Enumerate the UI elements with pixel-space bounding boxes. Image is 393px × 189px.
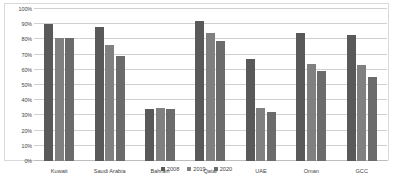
bar-2019-oman	[307, 64, 316, 161]
legend-item-2008[interactable]: 2008	[161, 166, 179, 172]
legend-item-2020[interactable]: 2020	[214, 166, 232, 172]
bar-2019-gcc	[357, 65, 366, 161]
y-axis-tick-label: 10%	[22, 143, 33, 149]
bar-2020-qatar	[216, 41, 225, 161]
bar-2008-bahrain	[145, 109, 154, 161]
bar-groups	[34, 9, 387, 161]
y-axis-labels: 100%90%80%70%60%50%40%30%20%10%0%	[4, 9, 32, 161]
bar-2019-qatar	[206, 33, 215, 161]
legend-item-2019[interactable]: 2019	[187, 166, 205, 172]
bar-group	[135, 9, 185, 161]
legend-swatch-icon	[214, 167, 218, 171]
bar-2020-bahrain	[166, 109, 175, 161]
bar-group	[286, 9, 336, 161]
bar-chart: 100%90%80%70%60%50%40%30%20%10%0% Kuwait…	[0, 0, 393, 189]
bar-2008-gcc	[347, 35, 356, 161]
y-axis-tick-label: 30%	[22, 112, 33, 118]
bar-group	[337, 9, 387, 161]
legend-swatch-icon	[187, 167, 191, 171]
bar-2020-oman	[317, 71, 326, 161]
bar-group	[185, 9, 235, 161]
bar-2008-uae	[246, 59, 255, 161]
bar-group	[84, 9, 134, 161]
bar-2020-kuwait	[65, 38, 74, 161]
bar-2008-saudi-arabia	[95, 27, 104, 161]
chart-legend: 200820192020	[0, 166, 393, 172]
y-axis-tick-label: 40%	[22, 97, 33, 103]
y-axis-tick-label: 80%	[22, 36, 33, 42]
bar-2020-uae	[267, 112, 276, 161]
legend-label: 2019	[193, 166, 205, 172]
bar-2020-gcc	[368, 77, 377, 161]
bar-2020-saudi-arabia	[116, 56, 125, 161]
y-axis-tick-label: 20%	[22, 128, 33, 134]
bar-2008-oman	[296, 33, 305, 161]
bar-2019-kuwait	[55, 38, 64, 161]
bar-2019-uae	[256, 108, 265, 161]
plot-area	[34, 9, 387, 161]
bar-2019-bahrain	[156, 108, 165, 161]
legend-label: 2008	[167, 166, 179, 172]
y-axis-tick-label: 70%	[22, 52, 33, 58]
bar-2019-saudi-arabia	[105, 45, 114, 161]
y-axis-tick-label: 100%	[19, 6, 32, 12]
bar-group	[34, 9, 84, 161]
bar-2008-qatar	[195, 21, 204, 161]
bar-group	[236, 9, 286, 161]
y-axis-tick-label: 0%	[24, 158, 32, 164]
legend-swatch-icon	[161, 167, 165, 171]
y-axis-tick-label: 50%	[22, 82, 33, 88]
y-axis-tick-label: 60%	[22, 67, 33, 73]
legend-label: 2020	[220, 166, 232, 172]
y-axis-tick-label: 90%	[22, 21, 33, 27]
bar-2008-kuwait	[44, 24, 53, 161]
